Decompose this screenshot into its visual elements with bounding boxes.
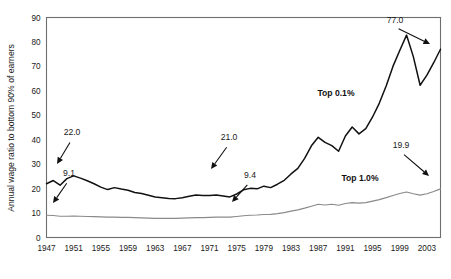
y-tick-label: 20 bbox=[31, 185, 41, 194]
x-tick-label: 1983 bbox=[282, 244, 301, 253]
annotation-value: 9.1 bbox=[63, 168, 75, 178]
y-tick-label: 40 bbox=[31, 136, 41, 145]
x-tick-label: 1951 bbox=[65, 244, 84, 253]
series-label: Top 0.1% bbox=[317, 88, 354, 98]
x-tick-label: 1947 bbox=[37, 244, 56, 253]
annotation-arrow-shaft bbox=[57, 183, 67, 197]
series-inline-labels: Top 0.1%Top 1.0% bbox=[317, 88, 378, 183]
y-tick-label: 60 bbox=[31, 87, 41, 96]
plot-frame bbox=[47, 18, 441, 238]
annotation-arrow-shaft bbox=[399, 29, 425, 41]
series-label: Top 1.0% bbox=[341, 173, 378, 183]
annotation-value: 19.9 bbox=[393, 140, 410, 150]
x-tick-label: 1971 bbox=[200, 244, 219, 253]
x-tick-label: 2003 bbox=[418, 244, 437, 253]
x-tick-label: 1967 bbox=[173, 244, 192, 253]
data-series bbox=[47, 35, 441, 218]
x-tick-label: 1995 bbox=[363, 244, 382, 253]
chart-figure: 0102030405060708090 19471951195519591963… bbox=[0, 0, 451, 279]
annotation-value: 22.0 bbox=[64, 127, 81, 137]
x-tick-label: 1959 bbox=[119, 244, 138, 253]
line-chart: 0102030405060708090 19471951195519591963… bbox=[0, 0, 451, 279]
y-tick-label: 50 bbox=[31, 111, 41, 120]
annotation-arrow-shaft bbox=[60, 142, 70, 158]
x-tick-label: 1979 bbox=[255, 244, 274, 253]
x-tick-label: 1991 bbox=[336, 244, 355, 253]
annotation-arrow-shaft bbox=[236, 185, 247, 197]
x-tick-label: 1987 bbox=[309, 244, 328, 253]
x-axis-tick-labels: 1947195119551959196319671971197519791983… bbox=[37, 244, 436, 253]
annotation-arrow-shaft bbox=[215, 147, 227, 163]
x-tick-label: 1955 bbox=[92, 244, 111, 253]
annotation-value: 9.4 bbox=[244, 170, 256, 180]
y-axis-title: Annual wage ratio to bottom 90% of earne… bbox=[6, 44, 16, 212]
y-tick-label: 10 bbox=[31, 209, 41, 218]
y-tick-label: 70 bbox=[31, 62, 41, 71]
series-line-top-1-0 bbox=[47, 189, 441, 219]
y-tick-label: 30 bbox=[31, 160, 41, 169]
annotation-arrow-shaft bbox=[404, 155, 424, 172]
y-tick-label: 90 bbox=[31, 14, 41, 23]
annotation-value: 77.0 bbox=[387, 15, 404, 25]
annotation-value: 21.0 bbox=[221, 132, 238, 142]
x-tick-label: 1975 bbox=[228, 244, 247, 253]
y-tick-label: 0 bbox=[36, 234, 41, 243]
x-tick-label: 1999 bbox=[391, 244, 410, 253]
y-axis-title-text: Annual wage ratio to bottom 90% of earne… bbox=[6, 44, 16, 212]
x-tick-label: 1963 bbox=[146, 244, 165, 253]
y-axis-tick-labels: 0102030405060708090 bbox=[31, 14, 41, 243]
y-tick-label: 80 bbox=[31, 38, 41, 47]
annotation-arrow-head bbox=[211, 162, 217, 169]
annotation-arrow-head bbox=[53, 196, 59, 203]
annotation-arrow-head bbox=[57, 157, 63, 164]
